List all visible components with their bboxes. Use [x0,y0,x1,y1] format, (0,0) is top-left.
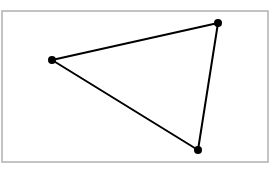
diagram-canvas [0,0,276,169]
vertex-B [214,19,222,27]
vertex-A [48,56,56,64]
diagram-frame [2,11,268,162]
vertex-C [194,146,202,154]
